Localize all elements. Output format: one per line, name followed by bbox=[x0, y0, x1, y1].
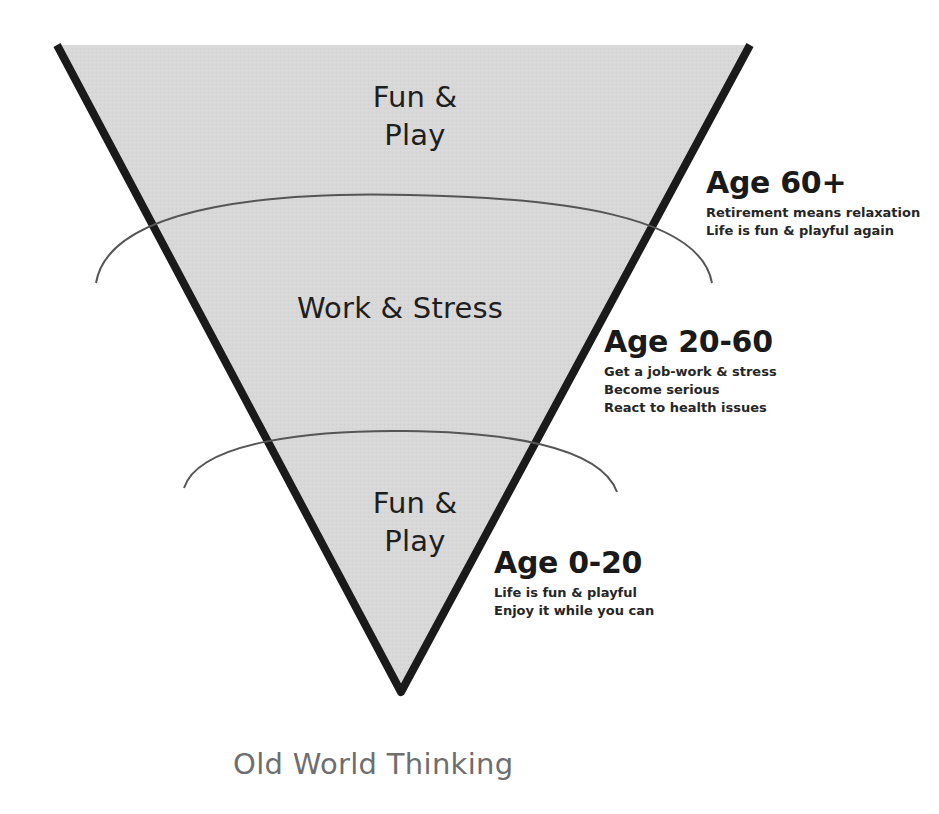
band-label-middle: Work & Stress bbox=[250, 289, 550, 327]
stage-age-heading: Age 20-60 bbox=[604, 325, 777, 359]
band-middle-line1: Work & Stress bbox=[250, 289, 550, 327]
stage-description-line: React to health issues bbox=[604, 399, 777, 417]
stage-age-heading: Age 60+ bbox=[706, 166, 920, 200]
band-bottom-line1: Fun & bbox=[330, 484, 500, 522]
band-bottom-line2: Play bbox=[330, 522, 500, 560]
right-edge-fade bbox=[917, 186, 939, 208]
stage-description-line: Retirement means relaxation bbox=[706, 204, 920, 222]
old-world-thinking-diagram: Fun & Play Work & Stress Fun & Play Age … bbox=[0, 0, 939, 814]
stage-description-line: Life is fun & playful again bbox=[706, 222, 920, 240]
stage-age-heading: Age 0-20 bbox=[494, 546, 654, 580]
stage-age-0-20: Age 0-20 Life is fun & playful Enjoy it … bbox=[494, 546, 654, 620]
stage-description-line: Become serious bbox=[604, 381, 777, 399]
band-top-line2: Play bbox=[330, 116, 500, 154]
stage-description-line: Enjoy it while you can bbox=[494, 602, 654, 620]
band-top-line1: Fun & bbox=[330, 78, 500, 116]
stage-age-20-60: Age 20-60 Get a job-work & stress Become… bbox=[604, 325, 777, 417]
band-label-bottom: Fun & Play bbox=[330, 484, 500, 560]
band-label-top: Fun & Play bbox=[330, 78, 500, 154]
stage-description-line: Get a job-work & stress bbox=[604, 363, 777, 381]
diagram-title: Old World Thinking bbox=[233, 747, 513, 781]
stage-description-line: Life is fun & playful bbox=[494, 584, 654, 602]
stage-age-60-plus: Age 60+ Retirement means relaxation Life… bbox=[706, 166, 920, 240]
